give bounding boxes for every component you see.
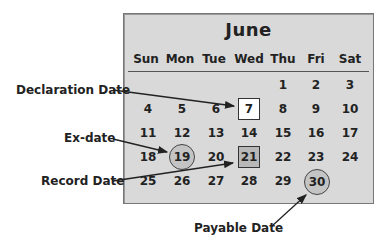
payable-date-arrow	[272, 195, 306, 226]
declaration-arrow	[113, 90, 234, 106]
ex-date-arrow	[113, 139, 167, 152]
record-date-arrow	[113, 163, 233, 181]
annotation-arrows	[0, 0, 386, 249]
